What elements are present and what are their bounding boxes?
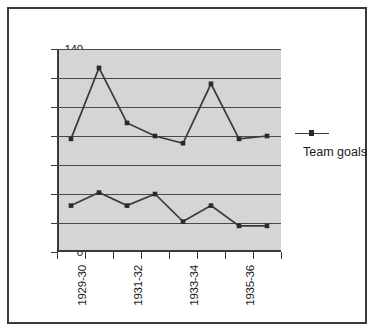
data-point-marker bbox=[125, 203, 130, 208]
x-axis-tick-mark bbox=[281, 252, 282, 259]
chart-frame: 020406080100120140 1929-301931-321933-34… bbox=[7, 7, 367, 324]
x-axis-tick-mark bbox=[113, 252, 114, 259]
x-axis-tick-label: 1935-36 bbox=[244, 265, 256, 306]
legend-symbol-team-goals bbox=[295, 129, 329, 139]
x-axis-tick-label: 1929-30 bbox=[76, 265, 88, 306]
legend: Team goals bbox=[295, 129, 373, 159]
data-point-marker bbox=[265, 224, 270, 229]
chart-screenshot: 020406080100120140 1929-301931-321933-34… bbox=[0, 0, 376, 333]
legend-label-team-goals: Team goals bbox=[303, 145, 373, 159]
data-point-marker bbox=[181, 219, 186, 224]
series-canvas bbox=[57, 49, 281, 252]
data-point-marker bbox=[69, 137, 74, 142]
x-axis-tick-mark bbox=[141, 252, 142, 259]
data-point-marker bbox=[153, 192, 158, 197]
legend-marker-icon bbox=[309, 130, 314, 136]
data-point-marker bbox=[69, 203, 74, 208]
data-point-marker bbox=[237, 224, 242, 229]
data-point-marker bbox=[209, 82, 214, 87]
series-line-2 bbox=[71, 193, 267, 226]
x-axis-tick-mark bbox=[57, 252, 58, 259]
data-point-marker bbox=[237, 137, 242, 142]
x-axis-tick-mark bbox=[85, 252, 86, 259]
x-axis-tick-label: 1933-34 bbox=[188, 265, 200, 306]
x-axis-tick-mark bbox=[253, 252, 254, 259]
series-line-1 bbox=[71, 68, 267, 143]
data-point-marker bbox=[265, 134, 270, 139]
data-point-marker bbox=[125, 121, 130, 126]
data-point-marker bbox=[97, 190, 102, 195]
data-point-marker bbox=[153, 134, 158, 139]
x-axis-tick-label: 1931-32 bbox=[132, 265, 144, 306]
x-axis-tick-mark bbox=[225, 252, 226, 259]
x-axis-tick-mark bbox=[197, 252, 198, 259]
data-point-marker bbox=[97, 66, 102, 71]
plot-region: 1929-301931-321933-341935-36 bbox=[57, 49, 281, 252]
data-point-marker bbox=[181, 141, 186, 146]
data-point-marker bbox=[209, 203, 214, 208]
x-axis-tick-mark bbox=[169, 252, 170, 259]
